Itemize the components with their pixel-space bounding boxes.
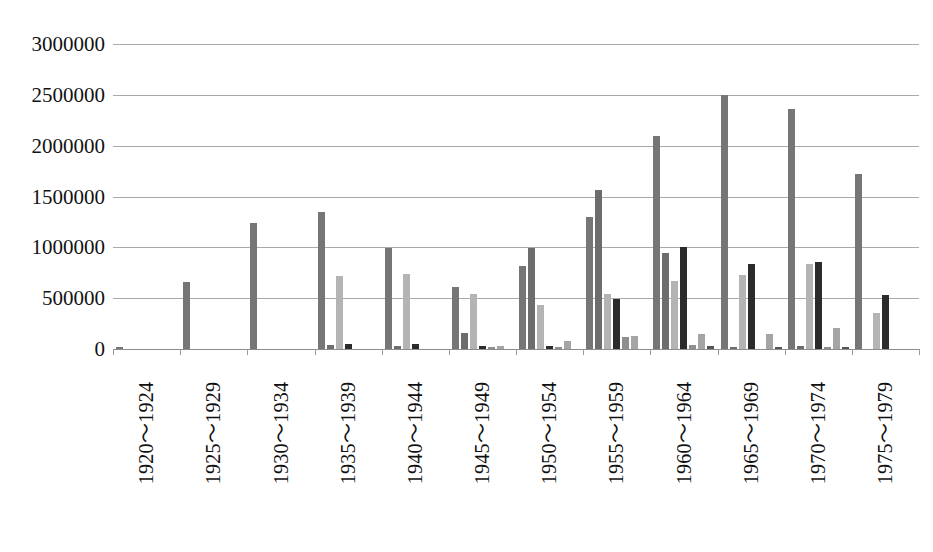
x-axis-tick-label: 1935～1939 (338, 382, 358, 485)
x-axis: 1920～19241925～19291930～19341935～19391940… (113, 349, 919, 539)
bar (662, 253, 669, 349)
x-axis-tick-label: 1965～1969 (741, 382, 761, 485)
bar (528, 248, 535, 349)
plot-area (113, 44, 919, 349)
y-axis-tick-label: 3000000 (5, 34, 105, 55)
bar (403, 274, 410, 349)
bar-chart: 3000000250000020000001500000100000050000… (0, 0, 933, 552)
x-axis-label-slot: 1965～1969 (718, 349, 785, 539)
bar-group (718, 44, 785, 349)
bar (537, 305, 544, 349)
x-axis-label-slot: 1950～1954 (516, 349, 583, 539)
bar (519, 266, 526, 349)
bar-group (852, 44, 919, 349)
x-axis-tick-label: 1960～1964 (674, 382, 694, 485)
bar (748, 264, 755, 349)
bar (766, 334, 773, 349)
bar (564, 341, 571, 349)
x-axis-tick-label: 1950～1954 (540, 382, 560, 485)
bar (739, 275, 746, 349)
y-axis-tick-label: 0 (5, 339, 105, 360)
bar-group (315, 44, 382, 349)
x-axis-label-slot: 1925～1929 (180, 349, 247, 539)
bar (815, 262, 822, 349)
bar (873, 313, 880, 349)
x-axis-label-slot: 1955～1959 (583, 349, 650, 539)
x-axis-label-slot: 1975～1979 (852, 349, 919, 539)
bar (806, 264, 813, 349)
bar-group (583, 44, 650, 349)
bar (318, 212, 325, 349)
x-axis-label-slot: 1945～1949 (449, 349, 516, 539)
bar (721, 95, 728, 349)
bar-group (650, 44, 717, 349)
bar (613, 299, 620, 349)
y-axis-tick-label: 1000000 (5, 237, 105, 258)
bar (882, 295, 889, 349)
x-axis-tick-label: 1975～1979 (875, 382, 895, 485)
y-axis-tick-label: 2000000 (5, 135, 105, 156)
bar (788, 109, 795, 349)
y-axis-tick-label: 1500000 (5, 186, 105, 207)
x-axis-tick-label: 1930～1934 (271, 382, 291, 485)
bar (336, 276, 343, 349)
bar (604, 294, 611, 349)
bar (470, 294, 477, 349)
bar (250, 223, 257, 349)
x-axis-label-slot: 1940～1944 (382, 349, 449, 539)
x-axis-label-slot: 1935～1939 (315, 349, 382, 539)
bar-group (516, 44, 583, 349)
bar (183, 282, 190, 349)
x-axis-tick-label: 1920～1924 (137, 382, 157, 485)
bar (385, 248, 392, 349)
x-axis-label-slot: 1960～1964 (650, 349, 717, 539)
x-axis-tick-label: 1955～1959 (607, 382, 627, 485)
y-axis-tick-label: 2500000 (5, 84, 105, 105)
bar (461, 333, 468, 349)
bar-group (247, 44, 314, 349)
x-axis-tick-label: 1940～1944 (405, 382, 425, 485)
bar-group (113, 44, 180, 349)
bar-group (180, 44, 247, 349)
bar (595, 190, 602, 349)
x-axis-label-slot: 1920～1924 (113, 349, 180, 539)
x-axis-tick-label: 1970～1974 (808, 382, 828, 485)
bar (698, 334, 705, 349)
bar-group (449, 44, 516, 349)
bar (622, 337, 629, 349)
bar (833, 328, 840, 349)
bar-group (785, 44, 852, 349)
bar (631, 336, 638, 349)
y-axis-tick-label: 500000 (5, 288, 105, 309)
x-axis-tick-mark (919, 349, 920, 355)
bar (586, 217, 593, 349)
bar (671, 281, 678, 349)
bar-group (382, 44, 449, 349)
x-axis-tick-label: 1925～1929 (204, 382, 224, 485)
bar (680, 247, 687, 349)
x-axis-label-slot: 1930～1934 (247, 349, 314, 539)
x-axis-label-slot: 1970～1974 (785, 349, 852, 539)
x-axis-tick-label: 1945～1949 (472, 382, 492, 485)
bar (452, 287, 459, 349)
bar (653, 136, 660, 350)
bar (855, 174, 862, 349)
